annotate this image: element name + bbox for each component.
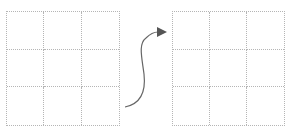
grid-cell [247,12,284,50]
grid-cell [247,50,284,88]
grid-cell [173,87,210,125]
grid-cell [247,87,284,125]
grid-cell [210,87,247,125]
target-grid [172,11,285,126]
grid-cell [173,50,210,88]
grid-cell [210,50,247,88]
grid-cell [173,12,210,50]
grid-cell [210,12,247,50]
